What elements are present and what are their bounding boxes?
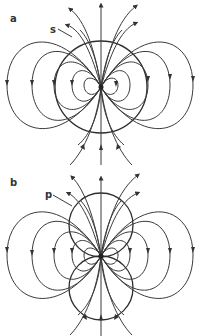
open-field-lines-top (67, 5, 136, 87)
s-leader-line (58, 29, 72, 37)
panel-b-label: b (10, 177, 17, 188)
dipole-b (99, 254, 104, 259)
sphere-s-label: s (50, 24, 56, 35)
open-field-lines-bottom-b (70, 256, 132, 336)
open-field-lines-bottom (70, 87, 132, 165)
dipole-a (99, 85, 104, 90)
dipole-field-figure: a s (0, 0, 200, 336)
p-leader-line (53, 195, 72, 206)
panel-b: b p (5, 175, 195, 336)
panel-a-label: a (10, 13, 17, 24)
field-loops-left-b (7, 212, 101, 299)
panel-a: a s (5, 5, 195, 165)
sphere-p-label: p (45, 189, 52, 200)
field-loops-right-b (101, 212, 193, 299)
